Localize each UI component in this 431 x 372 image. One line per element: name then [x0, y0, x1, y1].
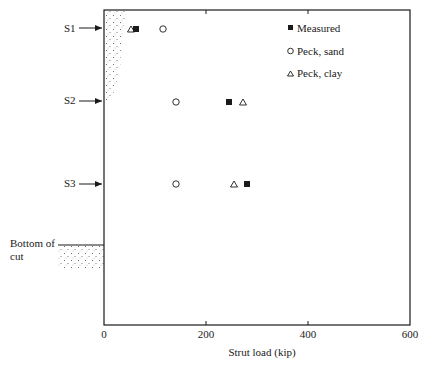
point-clay-s3 [231, 181, 238, 187]
bottom-of-cut-label-1: Bottom of [10, 237, 55, 249]
legend-peck-sand-label: Peck, sand [297, 45, 345, 57]
bottom-of-cut-label-2: cut [10, 250, 23, 262]
legend: Measured Peck, sand Peck, clay [288, 22, 345, 79]
series-peck-sand [160, 26, 179, 187]
point-measured-s3 [244, 181, 250, 187]
x-tick-0: 0 [101, 328, 107, 340]
x-axis-label: Strut load (kip) [228, 346, 296, 359]
legend-peck-clay-icon [288, 71, 294, 76]
soil-stipple-bottom [58, 245, 104, 269]
series-peck-clay [128, 26, 247, 187]
legend-peck-clay-label: Peck, clay [297, 67, 343, 79]
x-tick-400: 400 [300, 328, 317, 340]
point-clay-s2 [240, 99, 247, 105]
legend-measured-icon [288, 25, 293, 30]
x-tick-600: 600 [402, 328, 419, 340]
strut-label-s2: S2 [64, 94, 76, 106]
x-ticks [206, 10, 308, 325]
plot-frame [104, 10, 410, 325]
legend-measured-label: Measured [297, 22, 341, 34]
point-sand-s1 [160, 26, 166, 32]
strut-label-s1: S1 [64, 22, 76, 34]
strut-label-s3: S3 [64, 177, 76, 189]
point-sand-s3 [173, 181, 179, 187]
legend-peck-sand-icon [288, 48, 294, 54]
point-sand-s2 [173, 99, 179, 105]
x-tick-200: 200 [198, 328, 215, 340]
strut-load-chart: 0 200 400 600 Strut load (kip) S1 S2 S3 … [0, 0, 431, 372]
soil-stipple-wall [104, 10, 128, 105]
series-measured [133, 26, 250, 187]
point-measured-s2 [226, 99, 232, 105]
point-measured-s1 [133, 26, 139, 32]
